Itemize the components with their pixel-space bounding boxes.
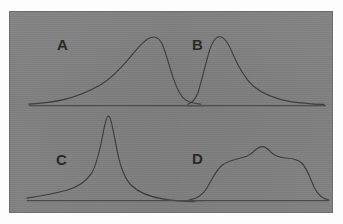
panel-c-group	[27, 116, 204, 202]
curve-c-path	[27, 116, 195, 202]
panel-label-b: B	[192, 37, 203, 52]
figure-root: A B C D	[0, 0, 343, 224]
curve-a-path	[29, 37, 201, 104]
panel-b-group	[186, 37, 326, 106]
panel-d-group	[187, 147, 329, 201]
panel-label-d: D	[192, 151, 203, 166]
figure-frame: A B C D	[9, 11, 333, 213]
panel-label-c: C	[56, 152, 67, 167]
panel-a-group	[29, 37, 204, 106]
panel-label-a: A	[57, 37, 68, 52]
curve-d-path	[189, 147, 329, 200]
curve-b-path	[188, 37, 324, 105]
